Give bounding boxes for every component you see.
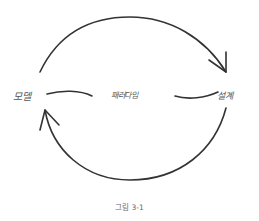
figure-caption: 그림 3-1	[0, 201, 259, 212]
arrow-model-to-design	[40, 17, 226, 72]
connector-left	[47, 91, 92, 96]
node-paradigm-label: 패러다임	[111, 89, 137, 100]
node-design-label: 설계	[217, 89, 233, 102]
cycle-arrows	[0, 0, 259, 221]
node-model-label: 모델	[13, 88, 31, 103]
diagram-canvas: 모델 패러다임 설계 그림 3-1	[0, 0, 259, 221]
arrow-design-to-model	[45, 108, 226, 180]
connector-right	[175, 92, 218, 98]
